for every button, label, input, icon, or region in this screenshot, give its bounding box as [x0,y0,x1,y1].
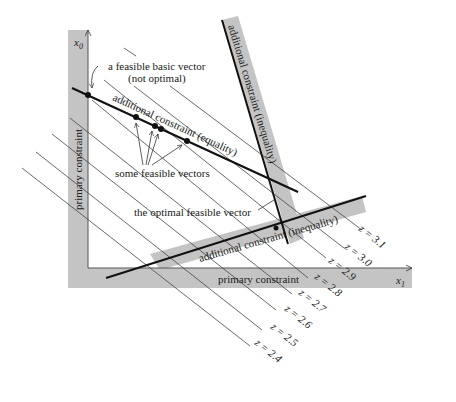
contour-label-2.4: z = 2.4 [252,336,285,365]
linear-programming-diagram: x0 x1 primary constraint primary constra… [0,0,456,402]
basic-vector-point [85,92,91,98]
optimal-vector-label: the optimal feasible vector [134,206,251,218]
contour-fragment [124,48,136,56]
feasible-point-1 [133,114,139,120]
feasible-point-2 [152,123,158,129]
basic-vector-label-1: a feasible basic vector [108,60,206,72]
contour-label-2.5: z = 2.5 [268,320,301,349]
contour-label-2.6: z = 2.6 [282,302,315,331]
basic-vector-label-2: (not optimal) [128,72,186,85]
contour-label-3.1: z = 3.1 [356,222,389,251]
feasible-point-3 [158,126,164,132]
feasible-point-4 [184,138,190,144]
equality-label: additional constraint (equality) [111,91,240,159]
primary-vertical-label: primary constraint [72,129,84,210]
basic-vector-arrow [92,66,98,88]
primary-horizontal-label: primary constraint [218,273,299,285]
feasible-vectors-label: some feasible vectors [115,167,210,179]
